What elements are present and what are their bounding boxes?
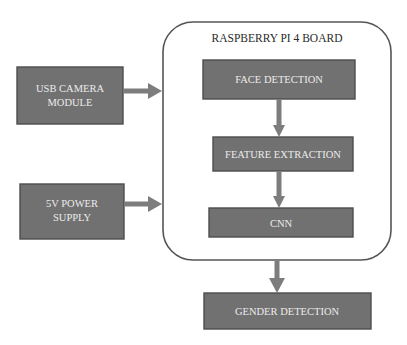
cnn-block: CNN	[209, 208, 353, 237]
usb-camera-module-block: USB CAMERA MODULE	[17, 67, 123, 124]
arrow-head-icon	[148, 196, 162, 212]
gender-detection-block: GENDER DETECTION	[204, 293, 371, 329]
face-detection-block: FACE DETECTION	[203, 60, 355, 99]
arrow-usb-to-board	[123, 83, 162, 99]
block-diagram: RASPBERRY PI 4 BOARD USB CAMERA MODULE 5…	[0, 0, 407, 345]
arrow-face-to-feature	[273, 99, 285, 137]
arrow-head-icon	[148, 83, 162, 99]
arrow-head-icon	[269, 278, 285, 293]
power-supply-label-line2: SUPPLY	[53, 212, 91, 223]
board-title: RASPBERRY PI 4 BOARD	[212, 32, 343, 44]
arrow-head-icon	[273, 196, 285, 208]
feature-extraction-block: FEATURE EXTRACTION	[213, 137, 353, 171]
usb-camera-label-line1: USB CAMERA	[36, 83, 104, 94]
arrow-head-icon	[273, 125, 285, 137]
feature-extraction-label: FEATURE EXTRACTION	[225, 149, 341, 160]
cnn-label: CNN	[270, 218, 293, 229]
arrow-board-to-gender	[269, 261, 285, 293]
power-supply-label-line1: 5V POWER	[46, 198, 98, 209]
arrow-feature-to-cnn	[273, 171, 285, 208]
face-detection-label: FACE DETECTION	[235, 74, 323, 85]
gender-detection-label: GENDER DETECTION	[235, 306, 340, 317]
usb-camera-box	[17, 67, 123, 124]
power-supply-block: 5V POWER SUPPLY	[20, 184, 124, 239]
arrow-power-to-board	[124, 196, 162, 212]
usb-camera-label-line2: MODULE	[48, 97, 93, 108]
